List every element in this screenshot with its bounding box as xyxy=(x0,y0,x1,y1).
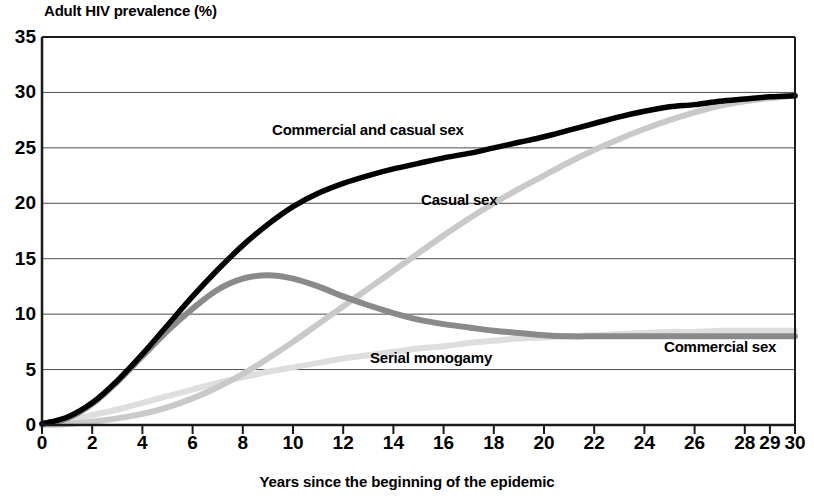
x-tick-label-22: 22 xyxy=(584,433,605,452)
series-label-commercial-sex: Commercial sex xyxy=(664,338,776,355)
series-label-commercial-and-casual-sex: Commercial and casual sex xyxy=(272,121,464,138)
x-tick-label-12: 12 xyxy=(333,433,354,452)
series-label-serial-monogamy: Serial monogamy xyxy=(370,349,492,366)
x-tick-label-20: 20 xyxy=(533,433,554,452)
x-tick-label-6: 6 xyxy=(187,433,198,452)
x-tick-label-0: 0 xyxy=(37,433,48,452)
x-tick-label-18: 18 xyxy=(483,433,504,452)
x-tick-label-14: 14 xyxy=(383,433,404,452)
x-tick-label-8: 8 xyxy=(238,433,249,452)
x-tick-label-28: 28 xyxy=(734,433,755,452)
series-label-casual-sex: Casual sex xyxy=(421,191,497,208)
x-tick-label-30: 30 xyxy=(784,433,805,452)
x-axis-title: Years since the beginning of the epidemi… xyxy=(0,473,814,490)
x-tick-label-16: 16 xyxy=(433,433,454,452)
x-tick-label-4: 4 xyxy=(137,433,148,452)
hiv-prevalence-chart: Adult HIV prevalence (%) 35302520151050 … xyxy=(0,0,814,498)
x-tick-label-2: 2 xyxy=(87,433,98,452)
x-tick-label-29: 29 xyxy=(759,433,780,452)
x-tick-label-26: 26 xyxy=(684,433,705,452)
x-tick-label-24: 24 xyxy=(634,433,655,452)
x-axis-tick-labels: 02468101214161820222426282930 xyxy=(0,0,814,498)
x-tick-label-10: 10 xyxy=(282,433,303,452)
